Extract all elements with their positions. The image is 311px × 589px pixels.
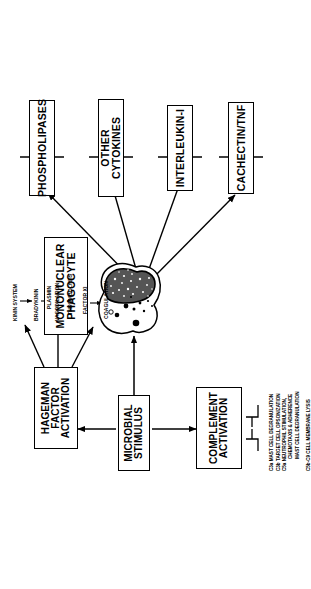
label-vasodilation: VASODILATION (55, 283, 60, 321)
label-thrombolysis: THROMBOLYSIS (68, 274, 73, 315)
node-other-cytokines-label: OTHER CYTOKINES (100, 100, 121, 196)
label-bradykinin: BRADYKININ (34, 289, 39, 321)
node-interleukin-i-label: INTERLEUKIN-I (175, 109, 186, 187)
diagram-canvas: MICROBIAL STIMULUS HAGEMAN FACTOR ACTIVA… (0, 0, 273, 589)
node-phospholipases-label: PHOSPHOLIPASES (37, 99, 48, 197)
complement-effect: MAST CELL DEGRANULATION (269, 394, 273, 461)
node-interleukin-i[interactable]: INTERLEUKIN-I (167, 105, 193, 191)
node-phospholipases[interactable]: PHOSPHOLIPASES (29, 100, 55, 196)
node-cachectin-tnf[interactable]: CACHECTIN/TNF (228, 102, 254, 194)
complement-effect-row: C3a MAST CELL DEGRANULATION (268, 291, 273, 471)
node-complement-line2: ACTIVATION (219, 398, 229, 459)
node-hageman-line2: ACTIVATION (61, 378, 71, 439)
label-coagulation: COAGULATION (104, 281, 109, 319)
node-hageman-line1: HAGEMAN FACTOR (41, 368, 61, 448)
node-other-cytokines[interactable]: OTHER CYTOKINES (98, 99, 124, 197)
label-kinin-system: KININ SYSTEM (13, 284, 18, 321)
node-microbial-stimulus[interactable]: MICROBIAL STIMULUS (118, 395, 150, 471)
node-complement-activation[interactable]: COMPLEMENT ACTIVATION (196, 387, 242, 469)
complement-component: C3a (269, 463, 273, 471)
arrow-phagocyte-to-interleukin (144, 180, 181, 283)
node-hageman-factor-activation[interactable]: HAGEMAN FACTOR ACTIVATION (34, 367, 78, 449)
label-plasmin: PLASMIN (47, 286, 52, 309)
output-bracket-complement (246, 405, 258, 451)
complement-effects-list: C3a MAST CELL DEGRANULATION C3b TARGET C… (268, 291, 273, 471)
connector-layer (0, 0, 273, 589)
node-microbial-stimulus-label: MICROBIAL STIMULUS (124, 396, 144, 470)
node-cachectin-tnf-label: CACHECTIN/TNF (236, 105, 247, 191)
arrow-hageman-to-kinin (25, 325, 44, 367)
label-factor-xi: FACTOR XI (83, 286, 88, 314)
arrow-phagocyte-to-cachectin (148, 195, 235, 283)
